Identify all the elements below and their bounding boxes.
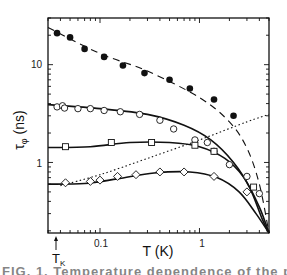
unit-label: (ns) bbox=[11, 110, 27, 134]
solid-curve bbox=[48, 142, 269, 233]
tk-arrowhead-icon bbox=[54, 236, 58, 241]
open-diamond-marker bbox=[156, 168, 164, 176]
open-circle-marker bbox=[244, 173, 250, 179]
open-circle-marker bbox=[61, 105, 67, 111]
fit-curves bbox=[48, 27, 269, 233]
y-axis-title-text: τφ(ns) bbox=[11, 110, 29, 150]
data-markers bbox=[54, 30, 263, 197]
open-diamond-marker bbox=[210, 172, 218, 180]
y-axis-title: τφ(ns) bbox=[11, 110, 29, 150]
open-diamond-marker bbox=[132, 171, 140, 179]
y-tick-label-1: 1 bbox=[36, 158, 42, 169]
filled-circle-marker bbox=[187, 85, 194, 92]
filled-circle-marker bbox=[101, 54, 108, 61]
chart-canvas: 0.1 1 10 1 T (K) τφ(ns) TK bbox=[0, 0, 287, 275]
open-square-marker bbox=[251, 184, 257, 190]
open-diamond-marker bbox=[180, 168, 188, 176]
open-diamond-marker bbox=[62, 179, 70, 187]
phi-subscript: φ bbox=[19, 138, 29, 144]
axis-labels: 0.1 1 10 1 T (K) τφ(ns) TK bbox=[11, 59, 205, 268]
open-circle-marker bbox=[157, 117, 163, 123]
figure-caption: FIG. 1. Temperature dependence of the ph… bbox=[2, 264, 287, 275]
filled-circle-marker bbox=[166, 77, 173, 84]
open-circle-marker bbox=[226, 161, 232, 167]
open-circle-marker bbox=[75, 105, 81, 111]
open-circle-marker bbox=[170, 126, 176, 132]
solid-curve bbox=[48, 172, 269, 233]
filled-circle-marker bbox=[120, 62, 127, 69]
open-square-marker bbox=[211, 148, 217, 154]
filled-circle-marker bbox=[81, 46, 88, 53]
filled-circle-marker bbox=[230, 112, 237, 119]
open-circle-marker bbox=[136, 111, 142, 117]
x-tick-label-1: 1 bbox=[199, 238, 205, 249]
open-circle-marker bbox=[87, 105, 93, 111]
x-axis-title: T (K) bbox=[143, 243, 174, 259]
y-tick-label-10: 10 bbox=[31, 59, 43, 70]
open-circle-marker bbox=[256, 190, 262, 196]
dashed-curve bbox=[48, 27, 269, 233]
open-square-marker bbox=[192, 142, 198, 148]
dotted-curve bbox=[60, 114, 269, 185]
open-circle-marker bbox=[117, 109, 123, 115]
open-circle-marker bbox=[204, 139, 210, 145]
filled-circle-marker bbox=[54, 30, 61, 37]
filled-circle-marker bbox=[141, 70, 148, 77]
open-diamond-marker bbox=[96, 176, 104, 184]
open-square-marker bbox=[149, 139, 155, 145]
open-circle-marker bbox=[101, 107, 107, 113]
open-square-marker bbox=[63, 144, 69, 150]
x-tick-label-0.1: 0.1 bbox=[94, 238, 108, 249]
filled-circle-marker bbox=[211, 96, 218, 103]
filled-circle-marker bbox=[67, 34, 74, 41]
open-square-marker bbox=[108, 139, 114, 145]
